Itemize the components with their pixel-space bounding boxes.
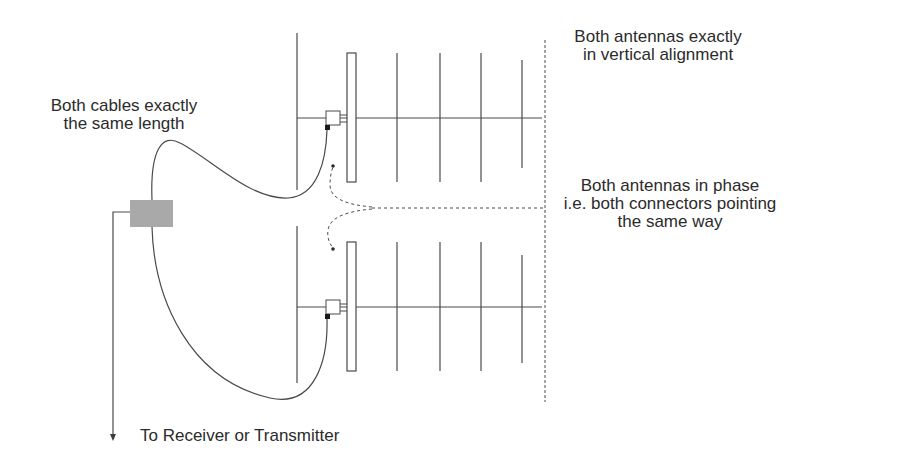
cables-label-line1: Both cables exactly <box>26 97 222 115</box>
alignment-label-line1: Both antennas exactly <box>568 28 748 46</box>
feed-label-text: To Receiver or Transmitter <box>140 427 339 445</box>
phase-label-line1: Both antennas in phase <box>552 177 788 195</box>
alignment-label-line2: in vertical alignment <box>568 46 748 64</box>
phase-arrow-down-head-icon <box>331 247 335 251</box>
top-connector-box <box>326 111 340 125</box>
phase-arrow-up-head-icon <box>331 164 335 168</box>
bottom-connector-pin-icon <box>325 314 330 319</box>
phase-label: Both antennas in phase i.e. both connect… <box>552 177 788 231</box>
phase-label-line2: i.e. both connectors pointing <box>552 195 788 213</box>
feed-line <box>113 212 130 434</box>
phase-indicator-arrows <box>328 164 545 251</box>
feed-arrow-icon <box>110 434 116 441</box>
phase-label-line3: the same way <box>552 213 788 231</box>
cable-bottom <box>152 227 327 399</box>
cables-label: Both cables exactly the same length <box>26 97 222 133</box>
bottom-connector-box <box>326 300 340 314</box>
feed-label: To Receiver or Transmitter <box>140 427 339 445</box>
top-connector-pin-icon <box>325 125 330 130</box>
cable-top <box>152 130 327 200</box>
power-splitter <box>130 200 173 227</box>
cables-label-line2: the same length <box>26 115 222 133</box>
bottom-driven-element <box>347 242 356 371</box>
top-driven-element <box>347 53 356 182</box>
alignment-label: Both antennas exactly in vertical alignm… <box>568 28 748 64</box>
antenna-stacking-diagram <box>0 0 901 467</box>
